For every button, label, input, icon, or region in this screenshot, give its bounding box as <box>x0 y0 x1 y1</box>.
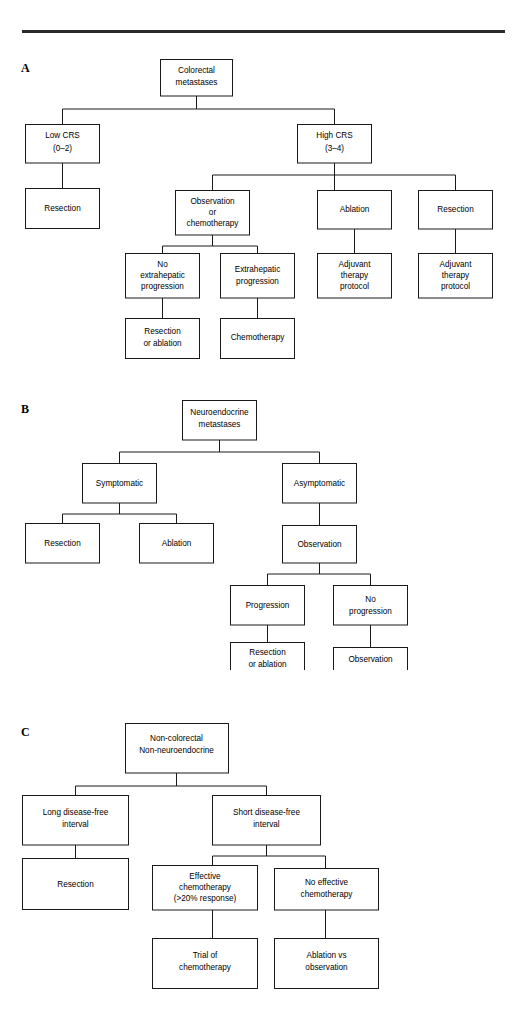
panel-a-node-resection-right[interactable]: Resection <box>419 191 493 230</box>
edge-symptomatic-to-resection <box>63 503 120 523</box>
node-line-1: Resection <box>44 539 81 548</box>
node-line-2: therapy <box>442 271 470 280</box>
node-line-2: chemotherapy <box>301 890 354 899</box>
panel-c: C Non-colorectal Non-neuroendocrine Long… <box>0 690 515 1022</box>
panel-a: A <box>0 50 515 360</box>
panel-a-flowchart: Colorectal metastases Low CRS (0–2) High… <box>0 50 515 360</box>
edge-root-to-low-crs <box>63 96 197 124</box>
panel-a-node-high-crs[interactable]: High CRS (3–4) <box>298 125 372 164</box>
node-line-1: Resection <box>57 880 94 889</box>
node-line-1: Observation <box>297 540 342 549</box>
node-line-1: Resection <box>437 205 474 214</box>
panel-c-node-resection[interactable]: Resection <box>23 859 129 910</box>
node-box <box>334 586 408 626</box>
node-line-3: (>20% response) <box>174 894 237 903</box>
panel-b-node-resection-or-ablation[interactable]: Resection or ablation <box>231 643 305 671</box>
node-line-2: interval <box>253 820 280 829</box>
panel-b-node-root[interactable]: Neuroendocrine metastases <box>183 401 257 441</box>
panel-b: B Neuroendocrine metastases Symptom <box>0 390 515 670</box>
panel-a-node-no-extrahepatic-progression[interactable]: No extrahepatic progression <box>126 254 200 299</box>
node-line-2: metastases <box>199 420 241 429</box>
edge-root-to-asymptomatic <box>220 452 320 463</box>
panel-a-node-chemotherapy[interactable]: Chemotherapy <box>221 319 295 359</box>
node-line-1: Neuroendocrine <box>190 408 249 417</box>
panel-a-node-extrahepatic-progression[interactable]: Extrahepatic progression <box>221 254 295 299</box>
node-box <box>221 254 295 299</box>
panel-c-node-root[interactable]: Non-colorectal Non-neuroendocrine <box>126 724 229 774</box>
panel-a-node-observation-or-chemotherapy[interactable]: Observation or chemotherapy <box>176 191 250 236</box>
edge-high-crs-to-obs-chemo <box>213 163 335 190</box>
panel-c-node-long-disease-free-interval[interactable]: Long disease-free interval <box>23 796 129 846</box>
panel-c-node-trial-of-chemotherapy[interactable]: Trial of chemotherapy <box>153 939 258 989</box>
panel-b-node-observation-2[interactable]: Observation <box>334 648 408 671</box>
node-line-1: No <box>365 595 376 604</box>
node-line-1: Symptomatic <box>96 479 143 488</box>
panel-b-node-ablation[interactable]: Ablation <box>140 524 214 564</box>
node-line-1: Low CRS <box>45 131 80 140</box>
node-line-1: Short disease-free <box>233 808 300 817</box>
node-line-2: chemotherapy <box>179 883 232 892</box>
node-line-2: progression <box>349 607 392 616</box>
node-line-1: Long disease-free <box>43 808 109 817</box>
node-line-1: Effective <box>189 872 221 881</box>
panel-c-node-no-effective-chemotherapy[interactable]: No effective chemotherapy <box>275 869 379 911</box>
panel-b-node-observation[interactable]: Observation <box>283 526 357 564</box>
edge-observation-to-progression <box>268 563 320 585</box>
edge-obs-chemo-to-extra <box>213 246 258 253</box>
node-line-1: No <box>157 260 168 269</box>
node-line-1: Observation <box>348 655 393 664</box>
panel-a-node-resection-left[interactable]: Resection <box>26 189 100 229</box>
node-line-1: Ablation vs <box>306 951 346 960</box>
node-line-1: Observation <box>190 197 235 206</box>
node-line-2: or ablation <box>248 660 287 669</box>
panel-b-node-resection[interactable]: Resection <box>26 524 100 564</box>
node-line-1: Adjuvant <box>440 260 473 269</box>
node-line-2: or <box>209 208 217 217</box>
node-line-1: Asymptomatic <box>294 479 345 488</box>
node-line-1: Extrahepatic <box>235 265 281 274</box>
edge-observation-to-no-progression <box>320 574 371 585</box>
edge-symptomatic-to-ablation <box>120 514 177 523</box>
edge-obs-chemo-to-no-extra <box>163 235 213 253</box>
panel-c-flowchart: Non-colorectal Non-neuroendocrine Long d… <box>0 690 515 1022</box>
node-line-1: Resection <box>144 327 181 336</box>
node-line-1: Non-colorectal <box>150 734 203 743</box>
edge-short-dfi-to-no-eff <box>267 856 326 868</box>
panel-a-node-low-crs[interactable]: Low CRS (0–2) <box>26 125 100 164</box>
node-line-1: No effective <box>305 878 349 887</box>
panel-a-node-resection-or-ablation[interactable]: Resection or ablation <box>126 319 200 359</box>
panel-b-node-no-progression[interactable]: No progression <box>334 586 408 626</box>
node-line-2: progression <box>236 277 279 286</box>
panel-a-node-adjuvant-therapy-protocol-1[interactable]: Adjuvant therapy protocol <box>318 254 392 299</box>
node-line-1: Adjuvant <box>339 260 372 269</box>
node-line-3: chemotherapy <box>187 219 240 228</box>
node-line-1: Trial of <box>193 951 218 960</box>
edge-root-to-high-crs <box>197 96 335 124</box>
panel-b-node-symptomatic[interactable]: Symptomatic <box>83 464 157 504</box>
edge-high-crs-to-resection <box>335 175 456 190</box>
node-line-2: observation <box>305 963 348 972</box>
node-line-2: extrahepatic <box>140 271 185 280</box>
panel-c-node-effective-chemotherapy[interactable]: Effective chemotherapy (>20% response) <box>153 866 258 911</box>
panel-a-node-adjuvant-therapy-protocol-2[interactable]: Adjuvant therapy protocol <box>419 254 493 299</box>
node-line-1: Resection <box>249 648 286 657</box>
panel-c-node-ablation-vs-observation[interactable]: Ablation vs observation <box>275 939 379 989</box>
node-line-1: High CRS <box>316 131 353 140</box>
node-line-3: protocol <box>441 282 470 291</box>
node-line-2: or ablation <box>143 339 182 348</box>
node-line-2: chemotherapy <box>179 963 232 972</box>
edge-root-to-long-dfi <box>76 773 177 795</box>
node-line-1: Ablation <box>340 205 370 214</box>
node-line-3: progression <box>141 282 184 291</box>
node-line-2: interval <box>62 820 89 829</box>
node-line-1: Resection <box>44 204 81 213</box>
panel-a-node-ablation[interactable]: Ablation <box>318 191 392 230</box>
panel-a-node-root[interactable]: Colorectal metastases <box>161 60 233 97</box>
panel-b-node-asymptomatic[interactable]: Asymptomatic <box>283 464 357 504</box>
panel-c-node-short-disease-free-interval[interactable]: Short disease-free interval <box>213 796 321 846</box>
node-line-2: therapy <box>341 271 369 280</box>
node-line-1: Ablation <box>162 539 192 548</box>
panel-b-node-progression[interactable]: Progression <box>231 586 305 626</box>
node-line-2: Non-neuroendocrine <box>139 746 214 755</box>
edge-root-to-symptomatic <box>120 440 220 463</box>
